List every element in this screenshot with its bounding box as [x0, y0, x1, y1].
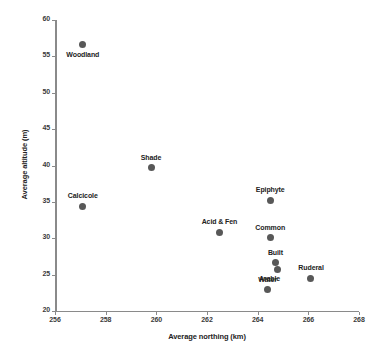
- x-tick-label-text: 260: [141, 316, 171, 323]
- x-axis-title: Average northing (km): [55, 332, 359, 341]
- y-tick-label: 20: [28, 306, 50, 316]
- y-tick-label: 45: [28, 124, 50, 134]
- y-tick-label: 30: [28, 233, 50, 243]
- x-tick-label-text: 264: [243, 316, 273, 323]
- data-point-label: Common: [255, 224, 285, 231]
- y-tick-label: 25: [28, 270, 50, 280]
- x-tick-label-text: 266: [293, 316, 323, 323]
- x-tick-label: 266: [293, 316, 323, 328]
- data-point-label: Calcicole: [68, 192, 98, 199]
- x-tick-mark: [308, 312, 309, 315]
- x-tick-mark: [207, 312, 208, 315]
- x-tick-label: 268: [344, 316, 368, 328]
- y-tick-label: 60: [28, 15, 50, 25]
- x-tick-label: 262: [192, 316, 222, 328]
- x-tick-mark: [156, 312, 157, 315]
- data-point: [274, 266, 281, 273]
- y-tick-label-text: 60: [28, 15, 50, 22]
- data-point: [264, 286, 271, 293]
- y-tick-label-text: 35: [28, 197, 50, 204]
- y-tick-mark: [52, 56, 55, 57]
- y-tick-label: 40: [28, 161, 50, 171]
- y-tick-label-text: 25: [28, 270, 50, 277]
- x-tick-label: 258: [91, 316, 121, 328]
- data-point-label: Shade: [141, 154, 162, 161]
- y-tick-mark: [52, 202, 55, 203]
- data-point: [267, 234, 274, 241]
- x-tick-label-text: 258: [91, 316, 121, 323]
- data-point: [79, 203, 86, 210]
- y-tick-label: 55: [28, 51, 50, 61]
- y-tick-label-text: 45: [28, 124, 50, 131]
- data-point-label: Acid & Fen: [202, 218, 238, 225]
- data-point-label: Woodland: [66, 51, 99, 58]
- y-tick-mark: [52, 20, 55, 21]
- y-tick-label-text: 40: [28, 161, 50, 168]
- y-tick-label-text: 30: [28, 233, 50, 240]
- x-tick-mark: [258, 312, 259, 315]
- y-axis-line: [55, 20, 57, 312]
- data-point-label: Built: [268, 249, 283, 256]
- data-point: [307, 275, 314, 282]
- data-point: [148, 164, 155, 171]
- x-tick-mark: [359, 312, 360, 315]
- data-point-label: Epiphyte: [256, 186, 285, 193]
- x-tick-label-text: 262: [192, 316, 222, 323]
- y-tick-mark: [52, 238, 55, 239]
- y-axis-title: Average altitude (m): [20, 65, 29, 265]
- scatter-chart: 202530354045505560 256258260262264266268…: [0, 0, 368, 364]
- y-tick-mark: [52, 93, 55, 94]
- data-point: [79, 41, 86, 48]
- y-tick-label: 35: [28, 197, 50, 207]
- y-tick-label-text: 55: [28, 51, 50, 58]
- x-tick-label: 256: [40, 316, 70, 328]
- data-point: [216, 229, 223, 236]
- x-tick-label-text: 256: [40, 316, 70, 323]
- y-tick-mark: [52, 129, 55, 130]
- y-tick-mark: [52, 166, 55, 167]
- x-tick-label: 264: [243, 316, 273, 328]
- y-tick-label-text: 50: [28, 88, 50, 95]
- data-point-label: Water: [258, 276, 277, 283]
- y-tick-label-text: 20: [28, 306, 50, 313]
- y-tick-mark: [52, 275, 55, 276]
- data-point-label: Ruderal: [298, 264, 323, 271]
- x-tick-mark: [106, 312, 107, 315]
- x-tick-mark: [55, 312, 56, 315]
- data-point: [267, 197, 274, 204]
- y-tick-label: 50: [28, 88, 50, 98]
- x-tick-label-text: 268: [344, 316, 368, 323]
- x-tick-label: 260: [141, 316, 171, 328]
